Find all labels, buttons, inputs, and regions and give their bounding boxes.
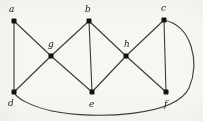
edge-a-g (14, 21, 51, 56)
edge-b-h (89, 21, 126, 56)
graph-canvas (0, 0, 203, 121)
graph-figure: abcghdef (0, 0, 203, 121)
vertex-label-f: f (164, 100, 167, 109)
vertex-e (90, 90, 95, 95)
edge-g-d (14, 56, 51, 92)
vertex-f (164, 90, 169, 95)
edge-h-e (92, 56, 126, 92)
vertex-b (87, 19, 92, 24)
vertex-label-c: c (161, 4, 166, 13)
edge-c-f (164, 20, 166, 92)
edge-g-e (51, 56, 92, 92)
vertex-label-h: h (124, 40, 130, 49)
edge-h-f (126, 56, 166, 92)
vertex-a (12, 19, 17, 24)
vertex-label-d: d (8, 99, 14, 108)
edge-h-c (126, 20, 164, 56)
vertex-label-a: a (9, 5, 14, 14)
vertex-c (162, 18, 167, 23)
vertex-label-e: e (89, 100, 94, 109)
edge-g-b (51, 21, 89, 56)
vertex-label-b: b (85, 5, 91, 14)
edge-b-e (89, 21, 92, 92)
vertex-h (124, 54, 129, 59)
vertex-label-g: g (48, 40, 54, 49)
vertex-g (49, 54, 54, 59)
vertex-d (12, 90, 17, 95)
